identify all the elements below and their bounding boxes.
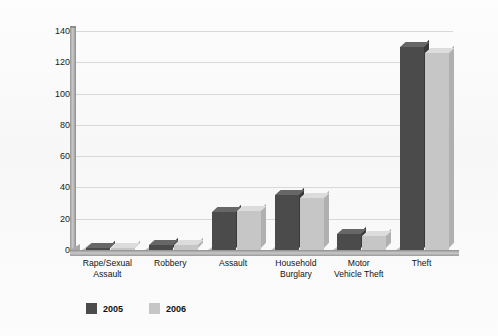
y-axis-tick-label: 20 [8, 215, 70, 224]
bar-2005-4 [275, 195, 299, 250]
bar-face [300, 198, 324, 250]
bar-2005-1 [86, 248, 110, 250]
y-axis-tick-label: 120 [8, 58, 70, 67]
bar-group [265, 31, 328, 250]
bar-2006-2 [174, 245, 198, 250]
bar-2005-6 [400, 47, 424, 250]
bar-2005-3 [212, 212, 236, 250]
bar-group [202, 31, 265, 250]
legend-item-2006[interactable]: 2006 [149, 303, 186, 314]
bar-2006-5 [362, 236, 386, 250]
bar-2005-2 [149, 245, 173, 250]
legend-label: 2006 [166, 304, 186, 314]
chart-legend: 20052006 [86, 303, 186, 314]
bar-side [449, 46, 454, 248]
y-axis-tick-label: 140 [8, 27, 70, 36]
y-axis-tick-label: 100 [8, 90, 70, 99]
bar-face [212, 212, 236, 250]
bar-group [139, 31, 202, 250]
bar-face [174, 245, 198, 250]
bar-chart-panel: Victimization Rate per 1000 Households 1… [0, 0, 498, 336]
legend-label: 2005 [103, 304, 123, 314]
bar-2006-6 [425, 53, 449, 250]
bar-face [86, 248, 110, 250]
bar-group [76, 31, 139, 250]
bar-2005-5 [337, 234, 361, 250]
bar-top [237, 206, 267, 211]
bar-group [327, 31, 390, 250]
bar-face [111, 248, 135, 250]
bar-group [390, 31, 453, 250]
bar-2006-3 [237, 211, 261, 250]
bar-face [362, 236, 386, 250]
bar-2006-1 [111, 248, 135, 250]
legend-swatch-icon [86, 303, 97, 314]
y-axis-tick-label: 0 [8, 246, 70, 255]
bar-face [425, 53, 449, 250]
x-axis-category-label: Theft [382, 258, 461, 269]
y-axis-tick-label: 40 [8, 183, 70, 192]
bar-top [111, 243, 141, 248]
legend-item-2005[interactable]: 2005 [86, 303, 123, 314]
bar-face [149, 245, 173, 250]
y-axis-tick-label: 60 [8, 152, 70, 161]
plot-area: 140120100806040200 [76, 31, 453, 250]
y-axis-tick-label: 80 [8, 121, 70, 130]
legend-swatch-icon [149, 303, 160, 314]
bar-face [275, 195, 299, 250]
bar-face [337, 234, 361, 250]
x-axis-line [70, 250, 459, 256]
bar-face [237, 211, 261, 250]
bar-2006-4 [300, 198, 324, 250]
bar-face [400, 47, 424, 250]
